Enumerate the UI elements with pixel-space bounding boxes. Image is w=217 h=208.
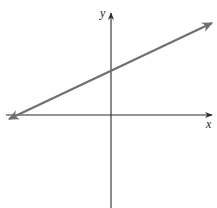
y-axis-label: y xyxy=(99,6,106,20)
x-axis-label: x xyxy=(205,117,212,131)
coordinate-graph: y x xyxy=(0,0,217,208)
